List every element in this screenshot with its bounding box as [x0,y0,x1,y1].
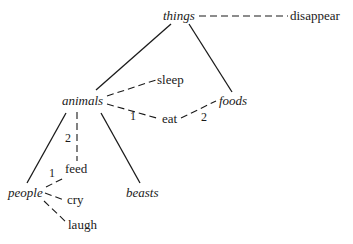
node-cry: cry [67,193,84,206]
edge-eat-foods [181,101,216,118]
edge-animals-sleep [107,80,156,96]
edge-things-foods [189,24,232,92]
edge-animals-beasts [101,113,140,183]
edge-label-eat-foods: 2 [201,111,207,124]
edge-label-people-feed: 1 [49,167,55,180]
node-eat: eat [162,112,177,125]
edge-people-laugh [44,201,66,222]
edge-label-animals-feed: 2 [65,132,71,145]
node-laugh: laugh [68,218,97,231]
edge-animals-people [27,113,66,183]
semantic-tree-diagram: things disappear sleep animals foods eat… [0,0,353,244]
edge-people-cry [45,193,64,200]
node-disappear: disappear [290,9,340,22]
edge-label-animals-eat: 1 [130,110,136,123]
node-sleep: sleep [157,73,184,86]
node-beasts: beasts [126,186,159,199]
node-animals: animals [62,94,103,107]
node-people: people [8,186,43,199]
node-foods: foods [219,94,247,107]
node-feed: feed [65,162,87,175]
node-things: things [163,9,195,22]
